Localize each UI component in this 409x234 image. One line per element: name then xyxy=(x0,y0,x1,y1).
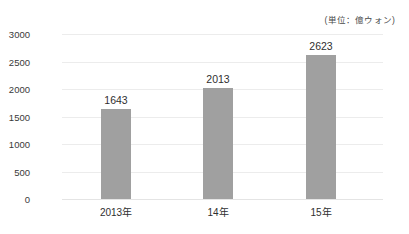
plot-area: 3000 2500 2000 1500 1000 500 0 1643 2013… xyxy=(62,34,383,199)
ytick-label-2500: 2500 xyxy=(0,56,30,67)
xtick-label-15: 15年 xyxy=(271,204,371,219)
bar-2013[interactable] xyxy=(101,109,131,199)
xtick-label-14: 14年 xyxy=(168,204,268,219)
unit-annotation: (単位：億ウォン) xyxy=(325,13,395,25)
xtick-label-2013: 2013年 xyxy=(66,204,166,219)
ytick-label-2000: 2000 xyxy=(0,84,30,95)
axis-baseline xyxy=(62,199,383,200)
bar-chart: (単位：億ウォン) 3000 2500 2000 1500 1000 500 0… xyxy=(0,0,409,234)
ytick-label-500: 500 xyxy=(0,166,30,177)
ytick-label-1500: 1500 xyxy=(0,111,30,122)
bar-value-label-14: 2013 xyxy=(206,73,229,85)
bar-slot-2013: 1643 xyxy=(66,34,166,199)
bar-14[interactable] xyxy=(203,88,233,199)
ytick-label-3000: 3000 xyxy=(0,29,30,40)
bar-15[interactable] xyxy=(306,55,336,199)
bar-series: 1643 2013 2623 xyxy=(62,34,383,199)
bar-slot-14: 2013 xyxy=(168,34,268,199)
ytick-label-0: 0 xyxy=(0,194,30,205)
x-axis-labels: 2013年 14年 15年 xyxy=(62,204,383,226)
bar-slot-15: 2623 xyxy=(271,34,371,199)
bar-value-label-15: 2623 xyxy=(309,40,332,52)
ytick-label-1000: 1000 xyxy=(0,139,30,150)
bar-value-label-2013: 1643 xyxy=(104,94,127,106)
